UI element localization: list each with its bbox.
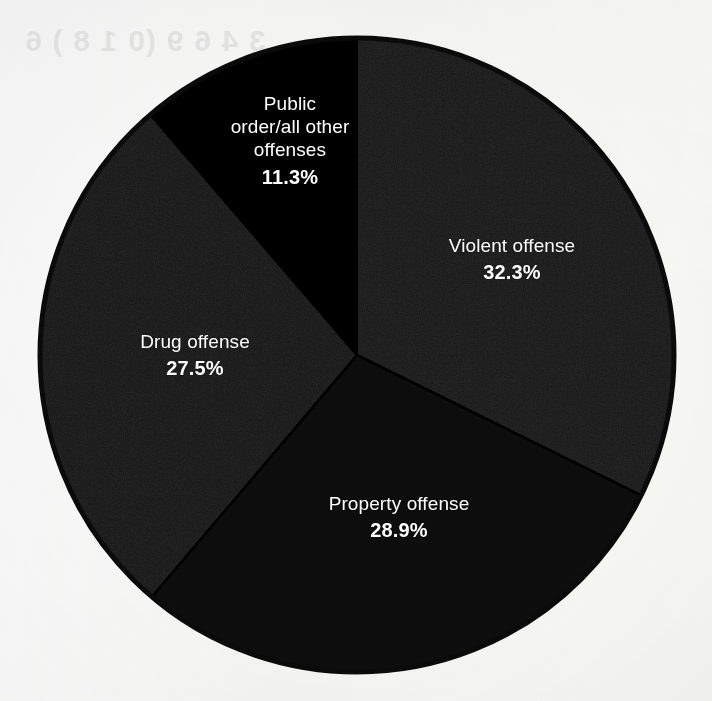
slice-label-public-order-line1: Public bbox=[192, 92, 388, 115]
slice-value-public-order: 11.3% bbox=[192, 165, 388, 189]
slice-label-public-order-line2: order/all other bbox=[192, 115, 388, 138]
pie-chart: Public order/all other offenses 11.3% Vi… bbox=[0, 0, 712, 701]
slice-label-violent-offense: Violent offense 32.3% bbox=[404, 234, 620, 285]
slice-label-property-offense-name: Property offense bbox=[284, 492, 514, 515]
slice-label-violent-offense-name: Violent offense bbox=[404, 234, 620, 257]
slice-value-drug-offense: 27.5% bbox=[92, 356, 298, 380]
slice-value-violent-offense: 32.3% bbox=[404, 260, 620, 284]
slice-label-public-order-line3: offenses bbox=[192, 138, 388, 161]
slice-label-public-order: Public order/all other offenses 11.3% bbox=[192, 92, 388, 189]
slice-label-drug-offense: Drug offense 27.5% bbox=[92, 330, 298, 381]
slice-label-property-offense: Property offense 28.9% bbox=[284, 492, 514, 543]
slice-label-drug-offense-name: Drug offense bbox=[92, 330, 298, 353]
slice-value-property-offense: 28.9% bbox=[284, 518, 514, 542]
